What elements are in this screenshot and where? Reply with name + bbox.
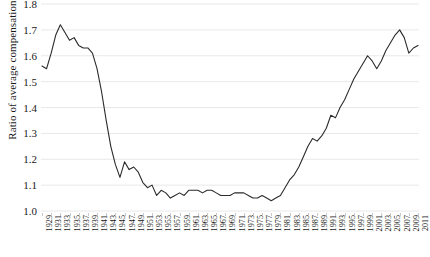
gridlines <box>41 4 419 211</box>
x-tick-mark <box>170 213 171 216</box>
x-tick-label: 1985 <box>303 215 311 231</box>
plot-area <box>41 0 419 213</box>
x-tick-mark <box>235 213 236 216</box>
x-tick-mark <box>106 213 107 216</box>
x-tick-mark <box>60 213 61 216</box>
x-tick-mark <box>290 213 291 216</box>
x-tick-label: 1993 <box>339 215 347 231</box>
data-series-line <box>42 25 418 201</box>
x-tick-mark <box>354 213 355 216</box>
x-tick-label: 1947 <box>129 215 137 231</box>
y-tick-label: 1.1 <box>23 180 37 191</box>
x-tick-label: 1981 <box>284 215 292 231</box>
x-tick-label: 1957 <box>174 215 182 231</box>
y-tick-label: 1.3 <box>23 128 37 139</box>
x-tick-label: 2007 <box>404 215 412 231</box>
x-tick-mark <box>115 213 116 216</box>
x-tick-mark <box>418 213 419 216</box>
y-axis-tick-labels: 1.01.11.21.31.41.51.61.71.8 <box>0 0 40 257</box>
x-tick-label: 2005 <box>394 215 402 231</box>
x-tick-mark <box>125 213 126 216</box>
x-tick-mark <box>372 213 373 216</box>
x-tick-mark <box>280 213 281 216</box>
x-tick-mark <box>308 213 309 216</box>
x-tick-label: 1933 <box>64 215 72 231</box>
x-tick-mark <box>345 213 346 216</box>
x-tick-label: 1983 <box>294 215 302 231</box>
x-tick-mark <box>400 213 401 216</box>
x-tick-mark <box>216 213 217 216</box>
x-tick-label: 1973 <box>248 215 256 231</box>
x-tick-mark <box>134 213 135 216</box>
x-tick-mark <box>390 213 391 216</box>
x-tick-label: 1935 <box>74 215 82 231</box>
x-tick-label: 1963 <box>202 215 210 231</box>
x-axis-tick-labels: 1929193119331935193719391941194319451947… <box>41 213 419 257</box>
x-tick-mark <box>88 213 89 216</box>
x-tick-label: 1951 <box>147 215 155 231</box>
x-tick-mark <box>180 213 181 216</box>
x-tick-label: 1995 <box>349 215 357 231</box>
x-tick-label: 2011 <box>422 215 430 231</box>
x-tick-mark <box>409 213 410 216</box>
x-tick-label: 1949 <box>138 215 146 231</box>
x-tick-label: 1971 <box>239 215 247 231</box>
x-tick-label: 1961 <box>193 215 201 231</box>
x-tick-mark <box>152 213 153 216</box>
x-tick-label: 1941 <box>101 215 109 231</box>
x-tick-mark <box>262 213 263 216</box>
x-tick-mark <box>70 213 71 216</box>
x-tick-mark <box>244 213 245 216</box>
x-tick-label: 1945 <box>119 215 127 231</box>
x-tick-label: 1975 <box>257 215 265 231</box>
x-tick-mark <box>299 213 300 216</box>
x-tick-mark <box>207 213 208 216</box>
x-tick-label: 1999 <box>367 215 375 231</box>
y-tick-label: 1.4 <box>23 102 37 113</box>
y-tick-label: 1.5 <box>23 76 37 87</box>
x-tick-label: 1939 <box>92 215 100 231</box>
x-tick-mark <box>79 213 80 216</box>
x-tick-mark <box>189 213 190 216</box>
x-tick-mark <box>253 213 254 216</box>
y-tick-label: 1.2 <box>23 154 37 165</box>
x-tick-label: 2009 <box>413 215 421 231</box>
x-tick-mark <box>161 213 162 216</box>
x-tick-label: 1969 <box>229 215 237 231</box>
x-tick-label: 1937 <box>83 215 91 231</box>
x-tick-mark <box>326 213 327 216</box>
y-tick-label: 1.0 <box>23 206 37 217</box>
x-tick-mark <box>225 213 226 216</box>
x-tick-mark <box>143 213 144 216</box>
y-tick-label: 1.7 <box>23 24 37 35</box>
x-tick-mark <box>317 213 318 216</box>
x-tick-mark <box>271 213 272 216</box>
x-tick-label: 1987 <box>312 215 320 231</box>
y-tick-label: 1.6 <box>23 50 37 61</box>
x-tick-label: 1959 <box>184 215 192 231</box>
x-tick-label: 1929 <box>46 215 54 231</box>
x-tick-mark <box>363 213 364 216</box>
x-tick-mark <box>335 213 336 216</box>
y-tick-label: 1.8 <box>23 0 37 10</box>
x-tick-mark <box>381 213 382 216</box>
x-tick-mark <box>51 213 52 216</box>
x-tick-mark <box>42 213 43 216</box>
x-tick-mark <box>198 213 199 216</box>
x-tick-mark <box>97 213 98 216</box>
x-tick-label: 1997 <box>358 215 366 231</box>
line-chart-svg <box>41 0 419 213</box>
